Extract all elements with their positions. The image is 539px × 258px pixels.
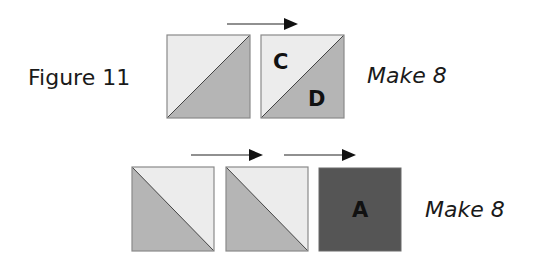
arrow-right-icon — [227, 18, 298, 30]
fabric-label-a: A — [352, 198, 368, 222]
hst-block-bottom-2 — [226, 167, 308, 251]
hst-block-bottom-1 — [132, 167, 214, 251]
arrow-right-icon — [191, 149, 263, 161]
make-count-caption-top: Make 8 — [367, 63, 447, 88]
make-count-caption-bottom: Make 8 — [425, 197, 505, 222]
hst-block-top-1 — [167, 35, 250, 118]
figure-title: Figure 11 — [28, 65, 130, 90]
arrow-right-icon — [284, 149, 356, 161]
hst-block-top-2 — [261, 35, 344, 118]
fabric-label-c: C — [273, 50, 288, 74]
fabric-label-d: D — [308, 87, 325, 111]
